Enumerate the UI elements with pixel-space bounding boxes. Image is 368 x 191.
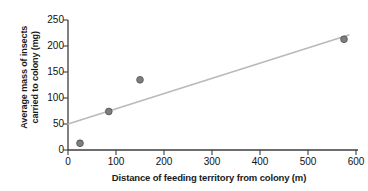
data-point bbox=[105, 108, 112, 115]
data-point bbox=[77, 140, 84, 147]
plot-area bbox=[0, 0, 368, 191]
scatter-plot-figure: Average mass of insects carried to colon… bbox=[0, 0, 368, 191]
data-points bbox=[77, 36, 348, 147]
x-tick-marks bbox=[68, 150, 356, 155]
x-axis-title: Distance of feeding territory from colon… bbox=[56, 172, 362, 183]
data-point bbox=[341, 36, 348, 43]
data-point bbox=[137, 76, 144, 83]
axis-group bbox=[68, 20, 358, 150]
y-tick-marks bbox=[63, 20, 68, 150]
